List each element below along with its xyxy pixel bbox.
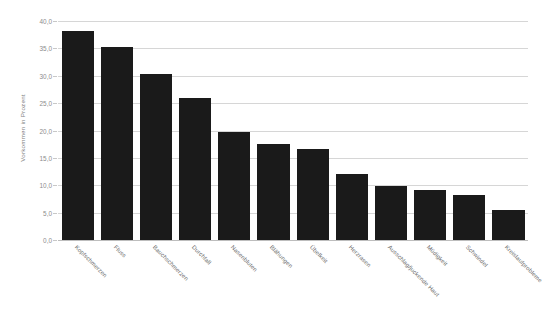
y-axis-tick-label: 20,0	[40, 127, 52, 134]
bar	[375, 186, 407, 240]
y-axis-tick-label: 5,0	[43, 209, 52, 216]
bar-series	[58, 21, 528, 240]
bar	[179, 98, 211, 240]
bar	[492, 210, 524, 240]
x-axis-labels: KopfschmerzenFlussBauchschmerzenDurchfal…	[58, 242, 528, 326]
bar	[257, 144, 289, 240]
x-axis-tick-label: Durchfall	[191, 244, 213, 266]
bar-chart: Vorkommen in Prozent 40,035,030,025,020,…	[0, 0, 556, 326]
bar-slot	[293, 21, 332, 240]
y-axis-tick-label: 25,0	[40, 100, 52, 107]
bar	[101, 47, 133, 240]
y-axis-tick-mark	[53, 48, 57, 49]
y-axis-tick-label: 40,0	[40, 18, 52, 25]
x-axis-tick-label: Blähungen	[269, 244, 294, 269]
y-axis-tick-label: 30,0	[40, 72, 52, 79]
x-axis-tick-label: Bauchschmerzen	[152, 244, 190, 282]
bar	[218, 132, 250, 240]
bar-slot	[332, 21, 371, 240]
y-axis-tick-mark	[53, 185, 57, 186]
bar	[62, 31, 94, 240]
bar-slot	[371, 21, 410, 240]
y-axis-tick-label: 0,0	[43, 237, 52, 244]
y-axis-tick-mark	[53, 76, 57, 77]
y-axis-tick-mark	[53, 240, 57, 241]
bar-slot	[254, 21, 293, 240]
bar-slot	[58, 21, 97, 240]
y-axis-tick-label: 15,0	[40, 154, 52, 161]
y-axis-title: Vorkommen in Prozent	[19, 94, 26, 162]
x-axis-tick-label: Müdigkeit	[426, 244, 449, 267]
x-axis-tick-label: Kreislaufprobleme	[504, 244, 544, 284]
bar	[453, 195, 485, 240]
x-axis-tick-label: Herzrasen	[348, 244, 372, 268]
bar-slot	[176, 21, 215, 240]
y-axis-tick-mark	[53, 158, 57, 159]
bar	[336, 174, 368, 240]
bar-slot	[215, 21, 254, 240]
x-axis-tick-label: Übelkeit	[308, 244, 328, 264]
x-axis-tick-label: Nasenbluten	[230, 244, 259, 273]
y-axis-tick-mark	[53, 21, 57, 22]
y-axis-tick-label: 10,0	[40, 182, 52, 189]
bar-slot	[450, 21, 489, 240]
bar	[140, 74, 172, 240]
bar-slot	[136, 21, 175, 240]
y-axis-tick-mark	[53, 213, 57, 214]
x-axis-tick-label: Kopfschmerzen	[73, 244, 108, 279]
y-axis-tick-mark	[53, 131, 57, 132]
y-axis-tick-label: 35,0	[40, 45, 52, 52]
x-axis-tick-label: Schwindel	[465, 244, 489, 268]
gridline	[58, 240, 528, 241]
x-axis-tick-label: Fluss	[113, 244, 128, 259]
bar	[414, 190, 446, 240]
bar-slot	[97, 21, 136, 240]
plot-area: 40,035,030,025,020,015,010,05,00,0	[58, 21, 528, 240]
bar-slot	[411, 21, 450, 240]
y-axis-tick-mark	[53, 103, 57, 104]
bar	[297, 149, 329, 240]
bar-slot	[489, 21, 528, 240]
